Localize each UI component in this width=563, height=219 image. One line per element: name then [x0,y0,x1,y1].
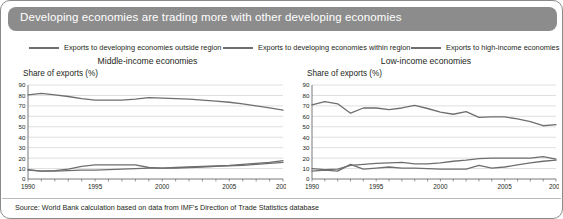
plot-area: 010203040506070809019901995200020052009 [9,82,286,194]
y-axis-title: Share of exports (%) [23,69,98,78]
svg-text:70: 70 [303,102,310,109]
figure-header-bar: Developing economies are trading more wi… [8,7,557,31]
chart-subtitle: Low-income economies [293,56,559,66]
svg-text:1995: 1995 [369,183,384,190]
svg-text:10: 10 [303,165,310,172]
svg-text:40: 40 [19,134,26,141]
figure-title: Developing economies are trading more wi… [20,11,402,23]
legend-label: Exports to developing economies within r… [258,43,410,52]
svg-text:50: 50 [303,123,310,130]
chart-legend: Exports to developing economies outside … [1,38,563,52]
legend-item-0: Exports to developing economies outside … [29,38,221,52]
plot-area: 010203040506070809019901995200020052009 [293,82,559,194]
svg-text:2009: 2009 [276,183,286,190]
svg-text:2000: 2000 [155,183,170,190]
svg-text:50: 50 [19,123,26,130]
legend-line-icon [223,47,253,49]
svg-text:1990: 1990 [305,183,320,190]
svg-text:10: 10 [19,165,26,172]
svg-text:1990: 1990 [21,183,36,190]
svg-text:30: 30 [19,144,26,151]
legend-label: Exports to high-income economies [446,43,559,52]
legend-line-icon [411,47,441,49]
source-note: Source: World Bank calculation based on … [15,203,319,212]
legend-item-2: Exports to high-income economies [411,38,559,52]
svg-text:30: 30 [303,144,310,151]
chart-subtitle: Middle-income economies [9,56,286,66]
svg-text:20: 20 [303,155,310,162]
svg-text:90: 90 [19,82,26,88]
svg-text:20: 20 [19,155,26,162]
svg-text:70: 70 [19,102,26,109]
svg-text:40: 40 [303,134,310,141]
svg-text:60: 60 [19,113,26,120]
svg-text:90: 90 [303,82,310,88]
line-chart-svg: 010203040506070809019901995200020052009 [293,82,559,194]
line-chart-svg: 010203040506070809019901995200020052009 [9,82,286,194]
svg-text:0: 0 [22,175,26,182]
chart-panel-low-income: Low-income economies Share of exports (%… [293,56,559,204]
footer-divider [2,198,561,199]
legend-label: Exports to developing economies outside … [64,43,221,52]
svg-text:2005: 2005 [222,183,237,190]
svg-text:60: 60 [303,113,310,120]
legend-item-1: Exports to developing economies within r… [223,38,410,52]
svg-text:80: 80 [303,92,310,99]
svg-text:2000: 2000 [433,183,448,190]
chart-panel-middle-income: Middle-income economies Share of exports… [9,56,286,204]
svg-text:1995: 1995 [88,183,103,190]
svg-text:0: 0 [306,175,310,182]
legend-line-icon [29,47,59,49]
figure-container: Developing economies are trading more wi… [0,0,563,219]
svg-text:2005: 2005 [498,183,513,190]
svg-text:2009: 2009 [549,183,559,190]
svg-text:80: 80 [19,92,26,99]
y-axis-title: Share of exports (%) [307,69,382,78]
